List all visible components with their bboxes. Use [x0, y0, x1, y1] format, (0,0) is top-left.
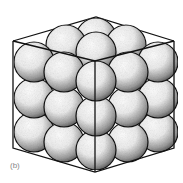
sphere — [76, 61, 116, 101]
spheres — [14, 18, 178, 170]
sphere-packing-cube-diagram — [0, 0, 183, 183]
sphere — [76, 96, 116, 136]
panel-label: (b) — [10, 161, 20, 170]
